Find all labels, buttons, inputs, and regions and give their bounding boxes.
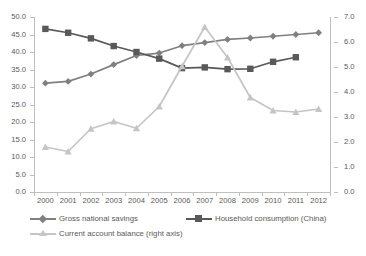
data-point-marker <box>156 103 163 110</box>
data-point-marker <box>110 118 117 125</box>
data-point-marker <box>110 43 116 49</box>
legend-marker-triangle-icon <box>30 228 56 239</box>
series-line <box>45 33 318 83</box>
data-point-marker <box>315 29 322 36</box>
legend-label-household-consumption: Household consumption (China) <box>212 214 326 224</box>
data-point-marker <box>201 23 208 30</box>
legend-item-gross-national-savings: Gross national savings <box>30 213 186 224</box>
data-point-marker <box>270 59 276 65</box>
legend-row-1: Gross national savings Household consump… <box>30 213 366 224</box>
data-point-marker <box>156 55 162 61</box>
data-point-marker <box>42 26 48 32</box>
data-point-marker <box>292 31 299 38</box>
data-point-marker <box>202 64 208 70</box>
data-point-marker <box>293 54 299 60</box>
data-point-marker <box>156 50 163 57</box>
data-point-marker <box>110 61 117 68</box>
data-point-marker <box>42 80 49 87</box>
data-point-marker <box>247 35 254 42</box>
legend-item-current-account-balance: Current account balance (right axis) <box>30 228 186 239</box>
data-point-marker <box>179 42 186 49</box>
data-point-marker <box>247 94 254 101</box>
data-point-marker <box>270 33 277 40</box>
data-point-marker <box>88 71 95 78</box>
data-point-marker <box>224 66 230 72</box>
series-1 <box>42 29 322 86</box>
data-point-marker <box>88 35 94 41</box>
legend-row-2: Current account balance (right axis) <box>30 228 366 239</box>
chart-legend: Gross national savings Household consump… <box>30 213 366 243</box>
data-point-marker <box>224 36 231 43</box>
data-point-marker <box>133 49 139 55</box>
legend-item-household-consumption: Household consumption (China) <box>186 213 326 224</box>
data-point-marker <box>201 39 208 46</box>
economic-indicators-chart: 0.05.010.015.020.025.030.035.040.045.050… <box>0 0 366 256</box>
data-point-marker <box>65 78 72 85</box>
data-point-marker <box>247 66 253 72</box>
legend-marker-diamond-icon <box>30 213 56 224</box>
legend-marker-square-icon <box>186 213 212 224</box>
legend-label-gross-national-savings: Gross national savings <box>56 214 138 224</box>
data-point-marker <box>65 30 71 36</box>
legend-label-current-account-balance: Current account balance (right axis) <box>56 229 183 239</box>
